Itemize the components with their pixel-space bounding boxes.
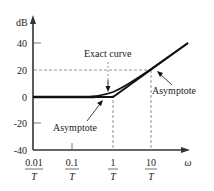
exact-curve-label: Exact curve <box>84 48 132 59</box>
asymptote-high-arrow-line <box>160 74 172 85</box>
x-tick-denominator: T <box>148 171 155 182</box>
asymptote-high-label: Asymptote <box>152 85 196 96</box>
y-tick-label--20: -20 <box>14 118 27 129</box>
x-axis-label: ω <box>184 157 191 168</box>
bode-plot: dB 40 20 0 -20 -40 0.01 T 0.1 T 1 T 10 T… <box>0 0 214 191</box>
exact-curve-arrow-icon <box>106 86 111 92</box>
x-tick-0.1-over-T: 0.1 T <box>65 157 79 182</box>
y-tick-label-0: 0 <box>22 92 27 103</box>
x-tick-10-over-T: 10 T <box>145 157 157 182</box>
y-tick-label-20: 20 <box>17 65 27 76</box>
asymptote-low-arrow-line <box>87 104 100 121</box>
x-axis-arrow-icon <box>181 147 190 153</box>
y-tick-label--40: -40 <box>14 145 27 156</box>
x-tick-numerator: 0.01 <box>25 157 43 168</box>
x-tick-denominator: T <box>69 171 76 182</box>
y-axis-label: dB <box>16 17 28 28</box>
x-tick-numerator: 0.1 <box>66 157 79 168</box>
y-tick-label-40: 40 <box>17 38 27 49</box>
y-axis-arrow-icon <box>30 15 36 24</box>
asymptote-low-arrow-icon <box>97 100 103 106</box>
x-tick-denominator: T <box>110 171 117 182</box>
x-tick-1-over-T: 1 T <box>108 157 118 182</box>
x-tick-numerator: 10 <box>146 157 156 168</box>
x-tick-numerator: 1 <box>111 157 116 168</box>
asymptote-low-label: Asymptote <box>53 122 97 133</box>
x-tick-0.01-over-T: 0.01 T <box>25 157 43 182</box>
x-tick-denominator: T <box>31 171 38 182</box>
